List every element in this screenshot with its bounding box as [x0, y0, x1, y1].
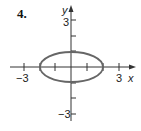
y-tick-label-neg3: −3 [58, 108, 71, 120]
y-axis-label: y [61, 4, 69, 16]
x-tick-label-neg3: −3 [16, 72, 29, 84]
y-axis-arrow-icon [69, 5, 74, 12]
ellipse-chart: −3 3 x y 3 −3 [0, 0, 141, 131]
x-tick-label-3: 3 [116, 72, 122, 84]
x-axis-label: x [127, 72, 134, 84]
x-axis-arrow-icon [129, 65, 136, 70]
y-tick-label-3: 3 [63, 16, 69, 28]
